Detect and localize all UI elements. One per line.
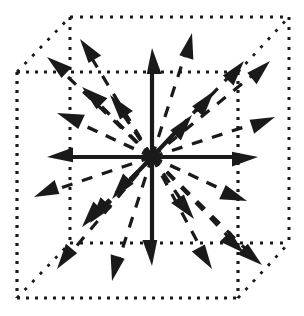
cube-neighborhood-diagram: 26-neighborhood cube direction diagram (0, 0, 304, 316)
figure-root: 26-neighborhood cube direction diagram (0, 0, 304, 316)
